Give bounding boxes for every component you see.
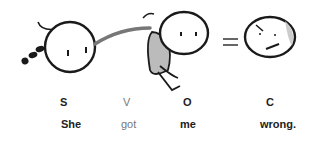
word-object: me <box>180 118 196 130</box>
word-subject: She <box>61 118 81 130</box>
subject-figure <box>21 22 95 72</box>
role-complement: C <box>266 96 274 108</box>
object-figure <box>143 12 208 90</box>
role-subject: S <box>60 96 67 108</box>
equals-sign <box>223 39 238 45</box>
role-verb: V <box>123 96 130 108</box>
word-complement: wrong. <box>260 118 296 130</box>
frowning-face <box>245 17 295 57</box>
reaching-arm <box>95 28 150 44</box>
word-verb: got <box>121 118 136 130</box>
role-object: O <box>183 96 192 108</box>
